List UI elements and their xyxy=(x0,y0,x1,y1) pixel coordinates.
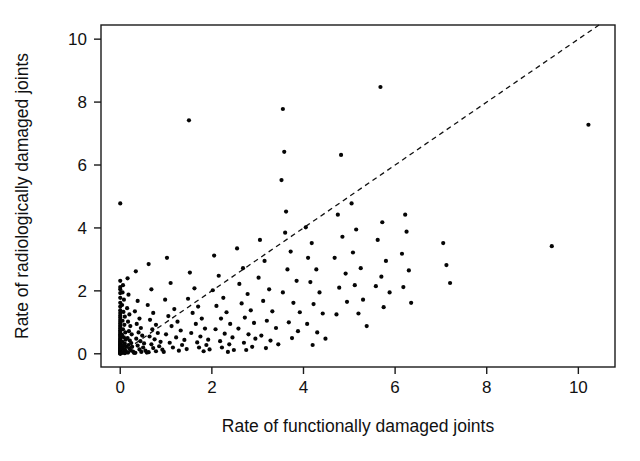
data-point xyxy=(284,209,288,213)
data-point xyxy=(126,343,130,347)
data-point xyxy=(206,338,210,342)
data-point xyxy=(196,304,200,308)
data-point xyxy=(217,274,221,278)
data-point xyxy=(158,340,162,344)
data-point xyxy=(148,318,152,322)
reference-line-group xyxy=(120,25,599,354)
x-tick-label: 8 xyxy=(482,378,491,397)
data-point xyxy=(165,256,169,260)
data-point xyxy=(151,311,155,315)
data-point xyxy=(586,123,590,127)
data-point xyxy=(365,324,369,328)
data-point xyxy=(218,339,222,343)
data-point xyxy=(448,281,452,285)
data-point xyxy=(120,290,124,294)
plot-canvas: 0246810 0246810 Rate of functionally dam… xyxy=(0,0,640,461)
data-point xyxy=(315,330,319,334)
data-point xyxy=(444,263,448,267)
data-point xyxy=(221,296,225,300)
data-point xyxy=(118,279,122,283)
data-point xyxy=(133,351,137,355)
data-point xyxy=(142,341,146,345)
data-point xyxy=(267,287,271,291)
data-point xyxy=(339,153,343,157)
x-tick-label: 6 xyxy=(390,378,399,397)
data-point xyxy=(441,241,445,245)
data-point xyxy=(249,308,253,312)
data-point xyxy=(128,324,132,328)
data-point xyxy=(168,341,172,345)
data-point xyxy=(281,107,285,111)
data-point xyxy=(244,348,248,352)
data-point xyxy=(323,337,327,341)
data-point xyxy=(268,338,272,342)
data-point xyxy=(147,262,151,266)
data-point xyxy=(134,269,138,273)
data-point xyxy=(382,305,386,309)
data-point xyxy=(187,118,191,122)
data-point xyxy=(197,345,201,349)
y-axis-ticks xyxy=(94,39,101,354)
data-point xyxy=(213,327,217,331)
scatter-plot-figure: 0246810 0246810 Rate of functionally dam… xyxy=(0,0,640,461)
data-point xyxy=(261,299,265,303)
data-point xyxy=(175,320,179,324)
x-axis-title: Rate of functionally damaged joints xyxy=(222,416,495,436)
x-axis-tick-labels: 0246810 xyxy=(116,378,588,397)
data-point xyxy=(147,350,151,354)
data-point xyxy=(311,302,315,306)
data-point xyxy=(550,244,554,248)
data-point xyxy=(182,338,186,342)
data-point xyxy=(349,201,353,205)
data-point xyxy=(281,290,285,294)
data-point xyxy=(264,346,268,350)
data-point xyxy=(388,290,392,294)
data-point xyxy=(127,312,131,316)
data-point xyxy=(118,201,122,205)
data-point xyxy=(265,319,269,323)
data-point xyxy=(198,334,202,338)
data-point xyxy=(334,312,338,316)
data-point xyxy=(351,250,355,254)
data-point xyxy=(306,256,310,260)
data-point xyxy=(157,344,161,348)
data-point xyxy=(204,343,208,347)
x-tick-label: 10 xyxy=(569,378,588,397)
data-point xyxy=(376,238,380,242)
data-point xyxy=(154,323,158,327)
data-point xyxy=(283,231,287,235)
data-point xyxy=(186,297,190,301)
data-point xyxy=(154,349,158,353)
data-point xyxy=(122,298,126,302)
data-point xyxy=(149,287,153,291)
data-point xyxy=(192,286,196,290)
data-point xyxy=(404,230,408,234)
y-tick-label: 8 xyxy=(78,93,87,112)
data-point xyxy=(310,241,314,245)
data-point xyxy=(120,303,124,307)
data-point xyxy=(296,329,300,333)
data-point xyxy=(290,336,294,340)
data-point xyxy=(126,320,130,324)
y-tick-label: 6 xyxy=(78,156,87,175)
data-point xyxy=(180,343,184,347)
data-point xyxy=(304,225,308,229)
data-point xyxy=(126,350,130,354)
data-point xyxy=(241,266,245,270)
data-point xyxy=(311,343,315,347)
data-point xyxy=(207,347,211,351)
data-point xyxy=(259,333,263,337)
data-point xyxy=(122,323,126,327)
data-point xyxy=(287,320,291,324)
data-point xyxy=(337,286,341,290)
data-point xyxy=(123,315,127,319)
identity-reference-line xyxy=(120,25,599,354)
data-point xyxy=(336,213,340,217)
data-point xyxy=(137,316,141,320)
data-point xyxy=(127,329,131,333)
data-point xyxy=(314,267,318,271)
data-point xyxy=(232,348,236,352)
data-point xyxy=(333,256,337,260)
data-point xyxy=(400,252,404,256)
data-point xyxy=(163,298,167,302)
